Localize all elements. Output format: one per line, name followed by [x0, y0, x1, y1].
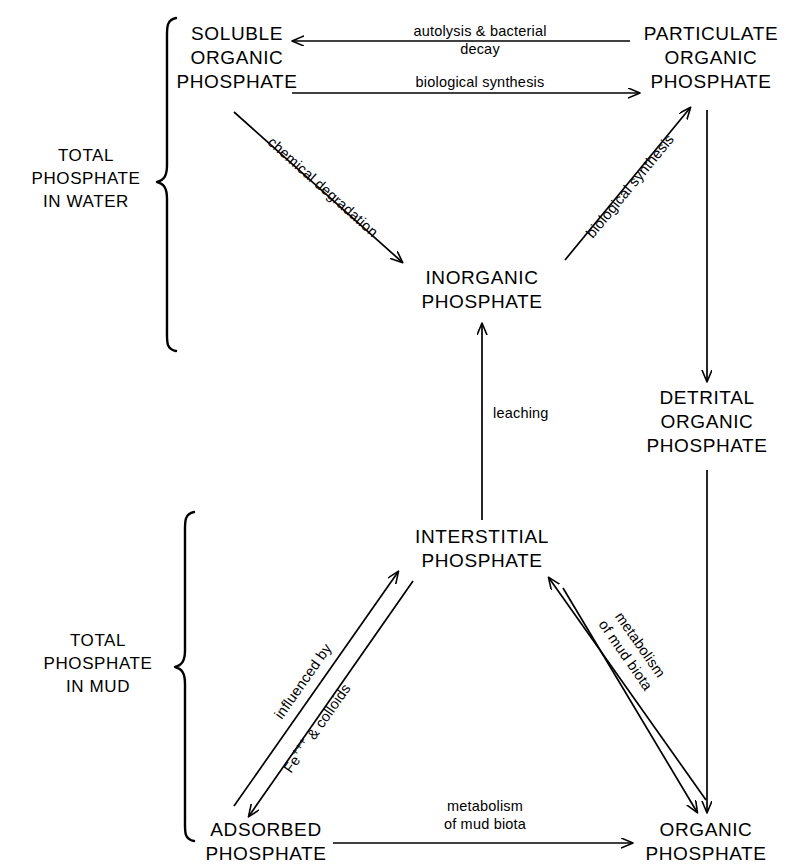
edge-label-line: decay: [375, 40, 585, 58]
group-label-line: TOTAL: [28, 629, 168, 652]
node-line: ORGANIC: [641, 46, 781, 70]
node-line: ORGANIC: [636, 818, 776, 842]
node-line: ORGANIC: [172, 46, 302, 70]
edge-label-line: of mud biota: [385, 815, 585, 833]
node-line: DETRITAL: [637, 386, 777, 410]
node-soluble-organic-phosphate: SOLUBLE ORGANIC PHOSPHATE: [172, 22, 302, 94]
edge-label-line: metabolism: [385, 797, 585, 815]
edge-label-metabolism-of-mud-biota-bottom: metabolism of mud biota: [385, 797, 585, 833]
node-interstitial-phosphate: INTERSTITIAL PHOSPHATE: [408, 525, 556, 573]
phosphate-cycle-diagram: SOLUBLE ORGANIC PHOSPHATE PARTICULATE OR…: [0, 0, 794, 867]
node-organic-phosphate: ORGANIC PHOSPHATE: [636, 818, 776, 866]
node-particulate-organic-phosphate: PARTICULATE ORGANIC PHOSPHATE: [641, 22, 781, 94]
node-line: PARTICULATE: [641, 22, 781, 46]
group-label-total-phosphate-in-water: TOTAL PHOSPHATE IN WATER: [16, 144, 156, 213]
edge-label-line: autolysis & bacterial: [375, 22, 585, 40]
node-detrital-organic-phosphate: DETRITAL ORGANIC PHOSPHATE: [637, 386, 777, 458]
node-line: INTERSTITIAL: [408, 525, 556, 549]
edge-adsorbed-to-interstitial: [234, 572, 398, 806]
edge-label-biological-synthesis-top: biological synthesis: [375, 73, 585, 91]
group-label-line: TOTAL: [16, 144, 156, 167]
node-line: PHOSPHATE: [412, 290, 552, 314]
group-label-line: PHOSPHATE: [28, 652, 168, 675]
node-line: PHOSPHATE: [641, 70, 781, 94]
edge-label-line: leaching: [493, 404, 583, 422]
node-line: SOLUBLE: [172, 22, 302, 46]
edge-label-leaching: leaching: [493, 404, 583, 422]
group-label-line: IN WATER: [16, 190, 156, 213]
node-line: PHOSPHATE: [637, 434, 777, 458]
node-line: INORGANIC: [412, 266, 552, 290]
bracket-total-phosphate-in-mud: [175, 512, 194, 841]
edge-label-autolysis-bacterial-decay: autolysis & bacterial decay: [375, 22, 585, 58]
node-line: PHOSPHATE: [408, 549, 556, 573]
node-adsorbed-phosphate: ADSORBED PHOSPHATE: [196, 818, 336, 866]
group-label-total-phosphate-in-mud: TOTAL PHOSPHATE IN MUD: [28, 629, 168, 698]
node-line: ADSORBED: [196, 818, 336, 842]
edge-label-line: biological synthesis: [375, 73, 585, 91]
group-label-line: IN MUD: [28, 675, 168, 698]
node-line: PHOSPHATE: [172, 70, 302, 94]
node-line: ORGANIC: [637, 410, 777, 434]
node-line: PHOSPHATE: [196, 842, 336, 866]
node-line: PHOSPHATE: [636, 842, 776, 866]
node-inorganic-phosphate: INORGANIC PHOSPHATE: [412, 266, 552, 314]
group-label-line: PHOSPHATE: [16, 167, 156, 190]
